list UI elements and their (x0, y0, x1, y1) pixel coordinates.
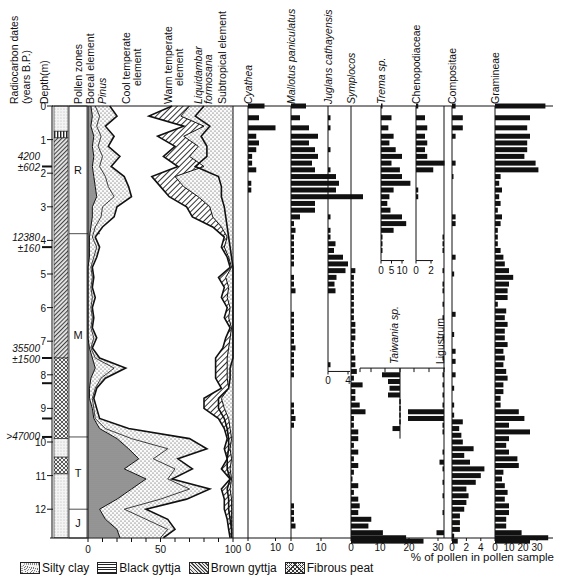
taxon-bar (351, 517, 371, 522)
cumulative-tick-label: 100 (225, 544, 242, 555)
taxon-bar (381, 161, 392, 166)
taxon-bar (452, 403, 454, 408)
taxon-bar (291, 221, 294, 226)
taxon-bar (328, 147, 331, 152)
header-radiocarbon: Radiocarbon dates (8, 16, 20, 104)
taxon-bar (291, 372, 294, 377)
date-error-label: ±602 (18, 162, 41, 173)
taxon-bar (328, 288, 336, 293)
taxon-bar (291, 214, 300, 219)
lithology-silty-clay (54, 439, 68, 457)
taxon-bar (351, 497, 358, 502)
taxa-bar-columns: 010Cyathea010Mallotus paniculatus04Jugla… (242, 8, 548, 553)
taxon-bar (452, 534, 454, 539)
taxon-bar (452, 440, 463, 445)
taxon-bar (495, 167, 538, 172)
column-headers: Radiocarbon dates (years B.P.) Depth(m) … (8, 11, 228, 104)
taxon-bar (381, 208, 390, 213)
taxon-bar (291, 325, 294, 330)
taxon-header: Juglans cathayensis (322, 9, 334, 105)
taxon-bar (452, 161, 456, 166)
taxon-bar (443, 510, 445, 515)
taxon-bar (351, 396, 355, 401)
legend-label: Fibrous peat (307, 561, 374, 575)
taxon-bar (399, 406, 401, 411)
taxon-bar (351, 483, 358, 488)
taxon-bar (381, 147, 396, 152)
taxon-bar (495, 342, 508, 347)
taxon-bar (416, 147, 425, 152)
taxon-bar (248, 188, 251, 193)
taxon-header: Mallotus paniculatus (285, 8, 297, 104)
taxon-bar (291, 517, 294, 522)
taxon-bar (351, 268, 355, 273)
taxon-bar (495, 463, 519, 468)
taxon-bar (495, 248, 501, 253)
taxon-bar (351, 356, 355, 361)
zone-label-M: M (73, 329, 82, 341)
taxon-bar (291, 167, 315, 172)
taxon-bar (248, 125, 276, 130)
taxon-bar (452, 453, 464, 458)
taxon-tick-label: 0 (378, 265, 384, 276)
taxon-bar (452, 520, 460, 525)
depth-tick-label: 2 (40, 168, 46, 179)
taxon-bar (291, 416, 296, 421)
taxon-bar (248, 134, 256, 139)
lithology-silty-clay (54, 106, 68, 131)
taxon-bar (452, 386, 454, 391)
taxon-bar (291, 352, 294, 357)
taxon-column-symplocos: 0102030Symplocos (345, 52, 444, 553)
taxon-bar (381, 115, 392, 120)
lithology-fibrous-peat (54, 358, 68, 439)
taxon-header: Compositae (446, 48, 458, 104)
taxon-bar (495, 308, 506, 313)
taxon-bar (351, 335, 355, 340)
taxon-header: Cyathea (242, 65, 254, 104)
taxon-bar (495, 208, 498, 213)
taxon-bar (443, 248, 445, 253)
taxon-header: Symplocos (345, 52, 357, 104)
taxon-bar (399, 413, 401, 418)
legend-item-silty-clay: Silty clay (20, 561, 89, 575)
taxon-bar (495, 282, 509, 287)
taxon-bar (291, 345, 296, 350)
taxon-bar (452, 466, 484, 471)
header-boreal: Boreal element (84, 33, 96, 104)
zone-label-T: T (75, 467, 82, 479)
taxon-bar (291, 332, 294, 337)
taxon-bar (495, 154, 524, 159)
taxon-bar (495, 125, 527, 130)
taxon-bar (291, 147, 315, 152)
taxon-bar (452, 419, 463, 424)
taxon-bar (328, 268, 346, 273)
taxon-bar (495, 194, 499, 199)
taxon-bar (351, 470, 354, 475)
taxon-bar (452, 446, 474, 451)
date-label: 35500 (12, 343, 40, 354)
taxon-bar (351, 403, 360, 408)
taxon-bar (408, 409, 444, 414)
taxon-bar (495, 329, 505, 334)
taxon-bar (495, 356, 505, 361)
taxon-bar (351, 302, 354, 307)
taxon-bar (495, 382, 503, 387)
taxon-bar (443, 423, 445, 428)
taxon-bar (452, 221, 456, 226)
taxon-bar (440, 460, 445, 465)
taxon-bar (452, 473, 481, 478)
lithology-legend: Silty clay Black gyttja Brown gyttja Fib… (20, 561, 373, 575)
taxon-bar (381, 134, 394, 139)
taxon-bar (328, 261, 348, 266)
taxon-bar (291, 423, 294, 428)
taxon-bar (443, 282, 445, 287)
taxon-bar (328, 282, 335, 287)
taxon-bar (495, 302, 498, 307)
taxon-bar (495, 369, 506, 374)
taxon-bar (291, 339, 294, 344)
taxon-bar (416, 125, 427, 130)
taxon-bar (291, 288, 296, 293)
taxon-bar (381, 154, 402, 159)
taxon-bar (351, 369, 357, 374)
header-warm-2: element (173, 49, 185, 86)
